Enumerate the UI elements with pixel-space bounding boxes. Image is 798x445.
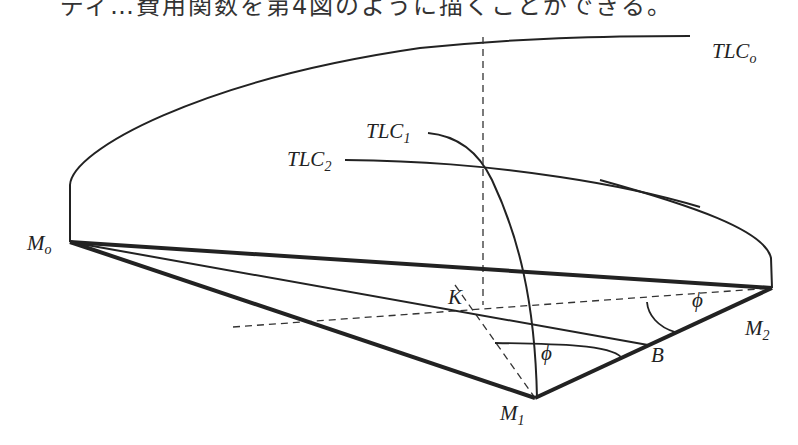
label-m2: M2 <box>744 316 770 343</box>
right-envelope-curve-visible <box>600 180 772 288</box>
label-tlc-1: TLC1 <box>366 119 410 146</box>
edge-mo-m1 <box>70 242 535 398</box>
cost-function-diagram: TLCo TLC1 TLC2 Mo M1 M2 K B ϕ ϕ <box>0 0 798 445</box>
angle-arc-m2 <box>647 302 675 332</box>
label-phi-m2: ϕ <box>692 288 703 312</box>
label-m1: M1 <box>499 401 525 428</box>
label-mo: Mo <box>26 231 52 257</box>
label-b: B <box>651 343 664 367</box>
edge-mo-m2 <box>70 242 772 288</box>
line-mo-b <box>70 242 648 345</box>
tlc-2-curve <box>345 160 700 207</box>
angle-arc-m1 <box>495 343 621 357</box>
label-tlc-o: TLCo <box>712 39 756 66</box>
label-phi-m1: ϕ <box>541 341 552 365</box>
label-tlc-2: TLC2 <box>287 147 331 174</box>
label-k: K <box>447 285 463 309</box>
dashed-diagonal <box>455 285 535 398</box>
